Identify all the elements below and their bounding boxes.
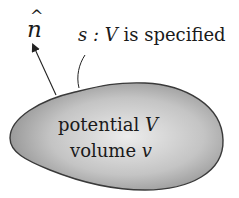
volume-blob [10, 83, 223, 190]
normal-vector-arrow [34, 47, 56, 95]
surface-leader-line [78, 55, 85, 88]
normal-vector-label: ^n [27, 16, 42, 42]
volume-label: volume v [70, 140, 152, 161]
surface-label: s : V is specified [78, 24, 226, 45]
potential-label: potential V [58, 114, 158, 135]
hat-accent: ^ [30, 7, 43, 26]
